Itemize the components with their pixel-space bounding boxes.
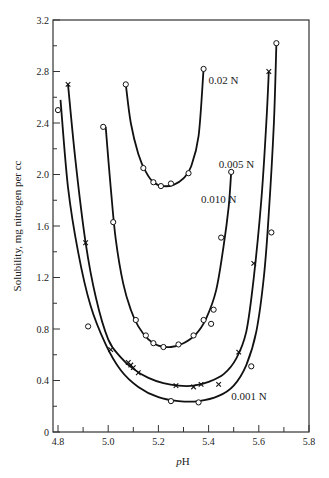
y-tick-label: 0.8 bbox=[37, 324, 50, 335]
circle-marker bbox=[269, 230, 274, 235]
y-tick-label: 0 bbox=[44, 427, 49, 438]
circle-marker bbox=[101, 124, 106, 129]
y-axis-title: Solubility, mg nitrogen per cc bbox=[11, 160, 23, 291]
data-markers bbox=[55, 41, 279, 405]
x-tick-label: 5.6 bbox=[253, 436, 266, 447]
circle-marker bbox=[168, 399, 173, 404]
circle-marker bbox=[196, 400, 201, 405]
x-tick-label: 4.8 bbox=[52, 436, 65, 447]
x-tick-label: 5.2 bbox=[152, 436, 165, 447]
circle-marker bbox=[201, 66, 206, 71]
circle-marker bbox=[219, 235, 224, 240]
x-axis-title: pH bbox=[175, 455, 190, 467]
curves bbox=[61, 43, 277, 401]
curve-label: 0.005 N bbox=[219, 158, 255, 170]
x-tick-label: 5.0 bbox=[102, 436, 115, 447]
y-axis: 00.40.81.21.62.02.42.83.2 bbox=[37, 15, 61, 438]
x-axis: 4.85.05.25.45.65.8 bbox=[52, 425, 316, 447]
y-tick-label: 0.4 bbox=[37, 375, 50, 386]
circle-marker bbox=[176, 342, 181, 347]
circle-marker bbox=[133, 317, 138, 322]
x-tick-label: 5.8 bbox=[303, 436, 316, 447]
curve-label: 0.001 N bbox=[231, 390, 267, 402]
y-tick-label: 2.0 bbox=[37, 169, 50, 180]
circle-marker bbox=[191, 333, 196, 338]
circle-marker bbox=[229, 169, 234, 174]
circle-marker bbox=[143, 333, 148, 338]
curve-0-02-N bbox=[126, 69, 204, 186]
circle-marker bbox=[123, 82, 128, 87]
curve-label: 0.02 N bbox=[209, 74, 239, 86]
circle-marker bbox=[209, 321, 214, 326]
circle-marker bbox=[151, 180, 156, 185]
y-tick-label: 1.6 bbox=[37, 221, 50, 232]
circle-marker bbox=[168, 181, 173, 186]
plot-frame bbox=[53, 20, 309, 432]
y-tick-label: 2.8 bbox=[37, 66, 50, 77]
curve-0-010-N bbox=[106, 127, 232, 347]
circle-marker bbox=[186, 171, 191, 176]
circle-marker bbox=[111, 220, 116, 225]
circle-marker bbox=[141, 165, 146, 170]
circle-marker bbox=[211, 307, 216, 312]
circle-marker bbox=[201, 317, 206, 322]
circle-marker bbox=[151, 341, 156, 346]
solubility-chart: 00.40.81.21.62.02.42.83.2 4.85.05.25.45.… bbox=[0, 0, 329, 478]
circle-marker bbox=[161, 344, 166, 349]
y-tick-label: 2.4 bbox=[37, 118, 50, 129]
cross-marker bbox=[216, 382, 221, 387]
circle-marker bbox=[86, 324, 91, 329]
x-tick-label: 5.4 bbox=[202, 436, 215, 447]
curve-label: 0.010 N bbox=[201, 193, 237, 205]
circle-marker bbox=[249, 364, 254, 369]
curve-0-005-N bbox=[68, 72, 269, 387]
circle-marker bbox=[55, 108, 60, 113]
circle-marker bbox=[158, 183, 163, 188]
y-tick-label: 1.2 bbox=[37, 272, 50, 283]
plot-border bbox=[53, 20, 309, 432]
curve-labels: 0.02 N0.010 N0.005 N0.001 N bbox=[201, 74, 267, 401]
y-tick-label: 3.2 bbox=[37, 15, 50, 26]
circle-marker bbox=[274, 41, 279, 46]
